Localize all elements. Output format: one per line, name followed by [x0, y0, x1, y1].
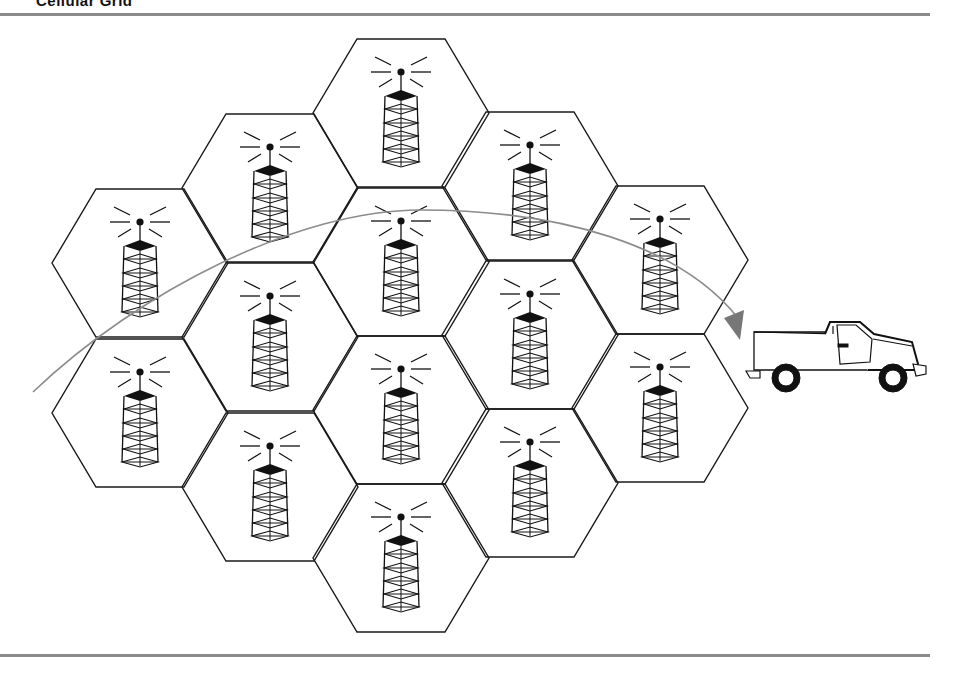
cell-tower-icon: [500, 130, 560, 240]
hex-cell: [313, 39, 489, 187]
hex-cell: [313, 484, 489, 632]
cell-tower-icon: [500, 427, 560, 537]
hex-cell: [313, 336, 489, 484]
cell-tower-icon: [630, 352, 690, 462]
handoff-path: [33, 210, 738, 392]
hex-cell: [182, 263, 358, 411]
cell-tower-icon: [240, 281, 300, 391]
cell-tower-icon: [371, 354, 431, 464]
arrowhead-icon: [724, 310, 744, 340]
cell-tower-icon: [240, 132, 300, 242]
cell-tower-icon: [500, 279, 560, 389]
cell-tower-icon: [110, 357, 170, 467]
hex-cell: [442, 409, 618, 557]
hex-cell: [182, 114, 358, 262]
hex-cell: [572, 186, 748, 334]
pickup-truck-icon: [746, 322, 926, 392]
cell-tower-icon: [371, 206, 431, 316]
cellular-grid-diagram: [0, 0, 956, 674]
cell-tower-icon: [630, 204, 690, 314]
hex-cell: [442, 112, 618, 260]
cell-tower-icon: [371, 502, 431, 612]
hex-cell: [182, 413, 358, 561]
hex-cell: [52, 339, 228, 487]
hex-cell: [442, 261, 618, 409]
cell-tower-icon: [110, 207, 170, 317]
cell-tower-icon: [240, 431, 300, 541]
hex-cell: [572, 334, 748, 482]
cell-tower-icon: [371, 57, 431, 167]
hex-cell: [52, 189, 228, 337]
